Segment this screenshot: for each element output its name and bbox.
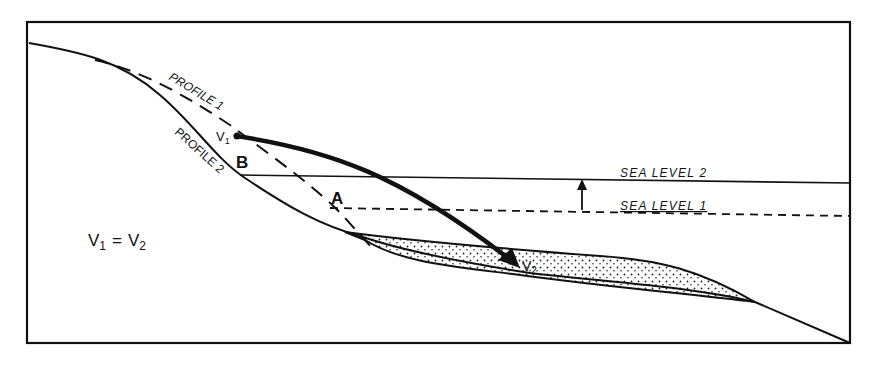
- sea-level-2-line: [240, 175, 850, 183]
- sea-level-rise-arrow-icon: [577, 179, 587, 210]
- sea-level-1-line: [330, 208, 850, 216]
- point-b-label: B: [236, 153, 248, 172]
- volume-equation: V1=V2: [88, 231, 146, 253]
- point-a-label: A: [331, 189, 343, 208]
- sea-level-1-label: SEA LEVEL 1: [620, 199, 707, 213]
- sea-level-rise-diagram: PROFILE 1 PROFILE 2 V1 B A SEA LEVEL 2 S…: [0, 0, 871, 370]
- profile-1-line: [95, 60, 372, 248]
- profile-1-label: PROFILE 1: [166, 70, 226, 114]
- v1-label: V1: [216, 129, 230, 146]
- sea-level-2-label: SEA LEVEL 2: [620, 166, 707, 180]
